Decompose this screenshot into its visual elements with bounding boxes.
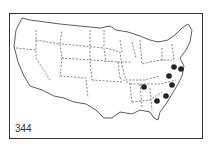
location-marker xyxy=(171,64,177,70)
location-marker xyxy=(141,84,147,90)
location-marker xyxy=(169,82,175,88)
location-marker xyxy=(178,66,184,72)
location-marker xyxy=(163,93,169,99)
location-marker xyxy=(166,73,172,79)
location-marker xyxy=(154,98,160,104)
map-label: 344 xyxy=(15,123,32,134)
